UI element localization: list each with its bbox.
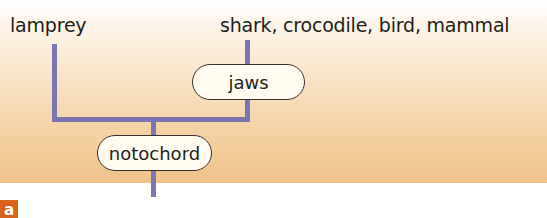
character-notochord: notochord [97, 135, 212, 171]
taxon-label-jawed-vertebrates: shark, crocodile, bird, mammal [220, 14, 509, 36]
taxon-label-lamprey: lamprey [10, 14, 86, 36]
branch-lamprey [52, 44, 57, 122]
character-jaws: jaws [192, 64, 305, 100]
panel-label: a [0, 200, 18, 218]
